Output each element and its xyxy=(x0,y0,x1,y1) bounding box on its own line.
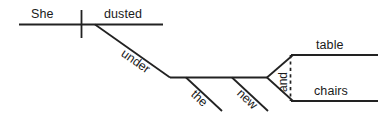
word-conjunction: and xyxy=(277,72,289,92)
word-object-table: table xyxy=(316,39,344,52)
word-subject: She xyxy=(31,8,54,21)
sentence-diagram: She dusted under the new and table chair… xyxy=(0,0,392,116)
word-verb: dusted xyxy=(104,8,142,21)
word-object-chairs: chairs xyxy=(314,85,348,98)
